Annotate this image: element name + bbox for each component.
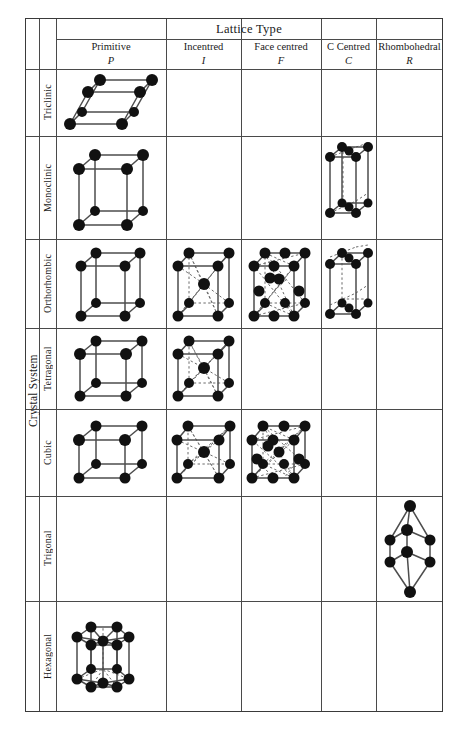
column-header-c-centred-name: C Centred [327,40,370,54]
row-label-tetragonal: Tetragonal [39,328,56,409]
header-lattice-type: Lattice Type [56,19,442,39]
hexagonal-p-diagram [65,607,157,707]
lattice-cell-cubic-f [241,409,321,496]
lattice-cell-hexagonal-p [56,601,166,712]
grid-vline-col-c [376,19,377,711]
lattice-table: Lattice Type Primitive P Incentred I Fac… [25,18,443,712]
column-header-incentred-symbol: I [202,54,206,67]
orthorhombic-p-diagram [72,243,150,325]
lattice-cell-cubic-p [56,409,166,496]
orthorhombic-c-diagram [323,243,375,325]
column-header-primitive-name: Primitive [91,40,130,54]
orthorhombic-f-diagram [245,243,317,325]
monoclinic-c-diagram [323,141,375,235]
lattice-cell-orthorhombic-c [321,239,376,328]
row-label-orthorhombic: Orthorhombic [39,239,56,328]
triclinic-p-diagram [60,72,162,134]
column-header-c-centred-symbol: C [345,54,352,67]
lattice-cell-cubic-i [166,409,241,496]
lattice-cell-trigonal-r [376,496,443,601]
row-label-triclinic: Triclinic [39,69,56,136]
row-label-monoclinic: Monoclinic [39,136,56,239]
lattice-cell-orthorhombic-i [166,239,241,328]
lattice-cell-triclinic-p [56,69,166,136]
column-header-face-centred-name: Face centred [254,40,307,54]
column-header-rhombohedral-symbol: R [406,54,412,67]
orthorhombic-i-diagram [169,243,239,325]
cubic-f-diagram [243,416,319,490]
row-label-cubic: Cubic [39,409,56,496]
column-header-incentred-name: Incentred [184,40,224,54]
bravais-lattice-figure: Lattice Type Primitive P Incentred I Fac… [0,0,457,736]
column-header-incentred: Incentred I [166,39,241,69]
column-header-face-centred: Face centred F [241,39,321,69]
column-header-rhombohedral: Rhombohedral R [376,39,443,69]
column-header-primitive-symbol: P [108,54,114,67]
tetragonal-i-diagram [169,332,239,406]
column-header-rhombohedral-name: Rhombohedral [378,40,440,54]
grid-vline-col-f [321,19,322,711]
row-label-trigonal: Trigonal [39,496,56,601]
tetragonal-p-diagram [70,332,152,406]
lattice-cell-tetragonal-p [56,328,166,409]
trigonal-r-diagram [382,500,438,598]
lattice-cell-tetragonal-i [166,328,241,409]
row-group-label-crystal-system: Crystal System [26,69,39,712]
grid-vline-col-i [241,19,242,711]
column-header-primitive: Primitive P [56,39,166,69]
column-header-face-centred-symbol: F [278,54,284,67]
lattice-cell-monoclinic-c [321,136,376,239]
row-label-hexagonal: Hexagonal [39,601,56,712]
lattice-cell-orthorhombic-p [56,239,166,328]
cubic-i-diagram [168,416,240,490]
lattice-cell-orthorhombic-f [241,239,321,328]
monoclinic-p-diagram [69,141,153,235]
lattice-cell-monoclinic-p [56,136,166,239]
column-header-c-centred: C Centred C [321,39,376,69]
cubic-p-diagram [69,416,153,490]
